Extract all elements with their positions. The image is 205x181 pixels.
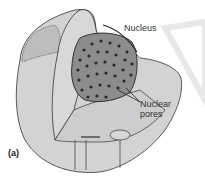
label-nucleus: Nucleus xyxy=(124,24,157,33)
label-nuclear-pores-1: Nuclear xyxy=(140,100,171,109)
label-nuclear-pores-2: pores xyxy=(140,110,163,119)
panel-label: (a) xyxy=(8,148,19,158)
cell-diagram xyxy=(0,0,205,181)
vesicle xyxy=(110,130,130,140)
